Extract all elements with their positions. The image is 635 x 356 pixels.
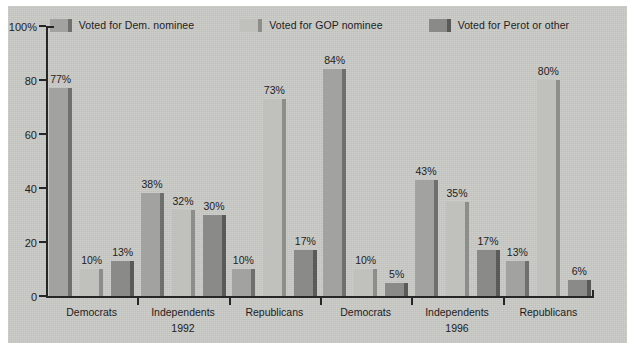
bar-gop: 32% <box>172 210 195 296</box>
bar-value-label: 5% <box>389 268 404 280</box>
bar-value-label: 38% <box>141 178 162 190</box>
chart-figure: Voted for Dem. nomineeVoted for GOP nomi… <box>0 0 635 356</box>
bar-value-label: 10% <box>81 254 102 266</box>
bar-value-label: 35% <box>446 187 467 199</box>
x-axis-tick <box>137 298 139 305</box>
y-axis-label: 0 <box>31 291 37 303</box>
bar-gop: 73% <box>263 99 286 296</box>
bar-perot: 17% <box>477 250 500 296</box>
y-axis-label: 80 <box>25 75 37 87</box>
bar-value-label: 10% <box>233 254 254 266</box>
x-axis-group-label: Republicans <box>245 306 303 318</box>
bar-perot: 17% <box>294 250 317 296</box>
bar-value-label: 17% <box>477 235 498 247</box>
y-axis-label: 100% <box>9 21 37 33</box>
bar-dem: 43% <box>415 180 438 296</box>
y-axis-tick <box>39 295 46 297</box>
bar-value-label: 10% <box>355 254 376 266</box>
x-axis-tick <box>229 298 231 305</box>
bar-value-label: 30% <box>203 200 224 212</box>
bar-gop: 35% <box>446 202 469 297</box>
bar-gop: 10% <box>354 269 377 296</box>
y-axis-label: 20 <box>25 237 37 249</box>
bar-value-label: 17% <box>295 235 316 247</box>
y-axis-top-cap <box>46 26 54 28</box>
y-axis-line <box>46 26 48 298</box>
bar-gop: 10% <box>80 269 103 296</box>
bar-dem: 13% <box>506 261 529 296</box>
bar-value-label: 13% <box>507 246 528 258</box>
bar-value-label: 73% <box>264 84 285 96</box>
x-axis-group-label: Republicans <box>519 306 577 318</box>
bar-value-label: 32% <box>172 195 193 207</box>
bar-gop: 80% <box>537 80 560 296</box>
bar-dem: 84% <box>323 69 346 296</box>
x-axis-group-label: Independents <box>425 306 489 318</box>
bar-dem: 77% <box>49 88 72 296</box>
y-axis-tick <box>39 79 46 81</box>
bar-value-label: 84% <box>324 54 345 66</box>
y-axis-label: 60 <box>25 129 37 141</box>
bar-value-label: 80% <box>538 65 559 77</box>
bar-value-label: 6% <box>572 265 587 277</box>
x-axis-tick <box>503 298 505 305</box>
x-axis-group-label: Independents <box>151 306 215 318</box>
x-axis-year-label: 1992 <box>171 322 194 334</box>
bar-dem: 38% <box>141 193 164 296</box>
x-axis-year-label: 1996 <box>445 322 468 334</box>
x-axis-tick <box>411 298 413 305</box>
y-axis-tick <box>39 133 46 135</box>
bar-value-label: 77% <box>50 73 71 85</box>
bar-perot: 30% <box>203 215 226 296</box>
y-axis-tick <box>39 25 46 27</box>
plot-area: 100%806040200 77%10%13%38%32%30%10%73%17… <box>46 26 594 298</box>
bar-perot: 5% <box>385 283 408 297</box>
y-axis-label: 40 <box>25 183 37 195</box>
x-axis-right-cap <box>592 290 594 298</box>
y-axis-tick <box>39 187 46 189</box>
bar-value-label: 13% <box>112 246 133 258</box>
bar-dem: 10% <box>232 269 255 296</box>
x-axis-tick <box>320 298 322 305</box>
bar-perot: 6% <box>568 280 591 296</box>
bar-value-label: 43% <box>415 165 436 177</box>
bar-perot: 13% <box>111 261 134 296</box>
x-axis-group-label: Democrats <box>340 306 391 318</box>
y-axis-tick <box>39 241 46 243</box>
x-axis-group-label: Democrats <box>66 306 117 318</box>
